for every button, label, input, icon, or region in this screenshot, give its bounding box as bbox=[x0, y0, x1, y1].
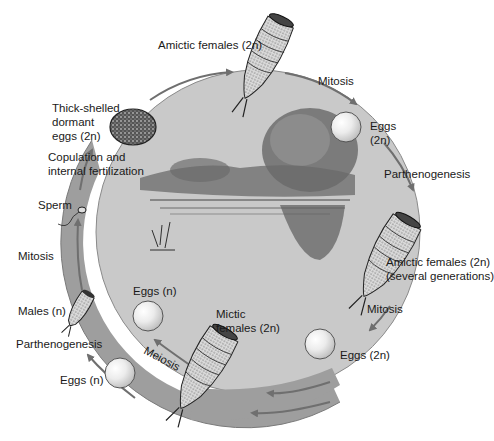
label-eggs-n-inner: Eggs (n) bbox=[133, 284, 176, 298]
label-mictic-females: Mictic females (2n) bbox=[216, 307, 280, 335]
label-mitosis-bottom-right: Mitosis bbox=[367, 302, 403, 316]
label-mitosis-top: Mitosis bbox=[318, 74, 354, 88]
label-eggs-2n-bottom: Eggs (2n) bbox=[340, 348, 390, 362]
label-mitosis-left: Mitosis bbox=[18, 249, 54, 263]
label-amictic-females-top: Amictic females (2n) bbox=[158, 38, 262, 52]
label-copulation: Copulation and internal fertilization bbox=[48, 150, 144, 178]
label-dormant-eggs: Thick-shelled dormant eggs (2n) bbox=[52, 101, 120, 143]
label-parthenogenesis-right: Parthenogenesis bbox=[384, 167, 470, 181]
egg-2n-bottom-icon bbox=[305, 329, 335, 359]
label-parthenogenesis-left: Parthenogenesis bbox=[16, 337, 102, 351]
label-amictic-females-right: Amictic females (2n) (several generation… bbox=[386, 255, 494, 283]
label-sperm: Sperm bbox=[38, 198, 72, 212]
label-eggs-n-outer: Eggs (n) bbox=[60, 373, 103, 387]
egg-n-outer-icon bbox=[105, 358, 135, 388]
label-males: Males (n) bbox=[18, 304, 66, 318]
egg-n-inner-icon bbox=[133, 301, 163, 331]
label-eggs-2n-top: Eggs (2n) bbox=[370, 119, 396, 147]
egg-2n-top-icon bbox=[331, 112, 361, 142]
